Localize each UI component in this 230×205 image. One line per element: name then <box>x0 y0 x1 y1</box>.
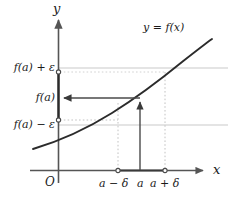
curve-label: y = f(x) <box>143 22 184 33</box>
epsilon-delta-limit-figure: y x O y = f(x) f(a) + ε f(a) f(a) − ε a … <box>0 0 230 205</box>
function-curve <box>33 39 212 149</box>
marker-a-minus-delta <box>116 168 120 172</box>
origin-label: O <box>45 176 55 188</box>
y-tick-label-f-a-plus-epsilon: f(a) + ε <box>1 62 55 73</box>
x-tick-label-a-plus-delta: a + δ <box>150 178 179 189</box>
x-axis-label: x <box>213 163 220 176</box>
marker-a-plus-delta <box>163 168 167 172</box>
x-tick-label-a-minus-delta: a − δ <box>99 178 128 189</box>
x-tick-label-a: a <box>137 178 144 189</box>
marker-f-a-plus-epsilon <box>56 70 60 74</box>
y-tick-label-f-a-minus-epsilon: f(a) − ε <box>1 119 55 130</box>
y-tick-label-f-a: f(a) <box>1 92 55 103</box>
marker-f-a-minus-epsilon <box>56 118 60 122</box>
y-axis-label: y <box>53 2 60 15</box>
